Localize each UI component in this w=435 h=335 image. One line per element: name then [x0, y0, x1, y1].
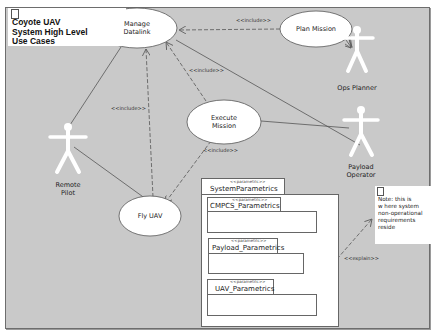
use-case-label-plan-mission: Plan Mission — [286, 25, 346, 33]
use-case-label-execute-mission: Execute Mission — [200, 114, 248, 130]
actor-label-ops-planner: Ops Planner — [337, 84, 377, 92]
actor-label-payload-operator: Payload Operator — [340, 163, 382, 179]
package-uav-parametrics[interactable] — [207, 294, 317, 316]
actor-label-remote-pilot: Remote Pilot — [48, 181, 88, 197]
use-case-label-manage-datalink: Manage Datalink — [117, 20, 157, 36]
include-label-fly-uav: <<include>> — [111, 105, 146, 111]
include-label-execute-mission: <<include>> — [189, 67, 224, 73]
package-name: CMPCS_Parametrics — [210, 202, 280, 210]
document-icon — [377, 187, 384, 196]
title-note: Coyote UAV System High Level Use Cases — [8, 8, 126, 46]
include-label-execute-to-fly: <<include>> — [203, 147, 238, 153]
actor-payload-operator-icon[interactable] — [344, 106, 378, 155]
include-label-plan-mission: <<include>> — [236, 17, 271, 23]
diagram-title: Coyote UAV System High Level Use Cases — [12, 18, 88, 47]
explain-label: <<explain>> — [344, 255, 379, 261]
package-stereotype: <<parametric>> — [230, 179, 265, 184]
package-name: UAV_Parametrics — [215, 285, 274, 293]
package-name: Payload_Parametrics — [212, 244, 284, 252]
package-stereotype: <<parametric>> — [231, 238, 266, 243]
use-case-label-fly-uav: Fly UAV — [125, 212, 175, 220]
requirements-note[interactable]: Note: this is w here system non-operatio… — [375, 186, 431, 244]
actor-remote-pilot-icon[interactable] — [50, 123, 86, 172]
note-text: Note: this is w here system non-operatio… — [378, 196, 422, 231]
package-payload-parametrics[interactable] — [208, 253, 304, 274]
package-stereotype: <<parametric>> — [230, 279, 265, 284]
package-name: SystemParametrics — [210, 185, 278, 193]
package-cmpcs-parametrics[interactable] — [207, 211, 317, 233]
